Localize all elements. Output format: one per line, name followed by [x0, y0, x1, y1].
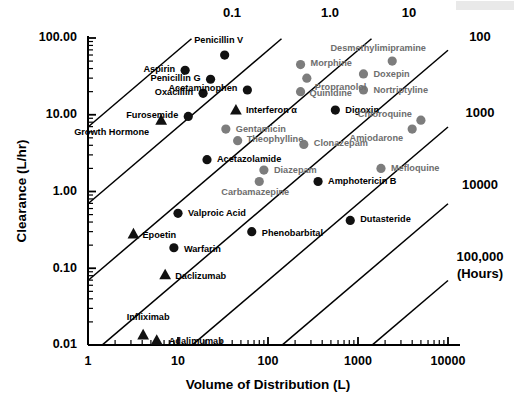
y-tick-label-0.01: 0.01 — [53, 337, 77, 351]
data-point-gentamicin — [221, 125, 230, 134]
data-point-amiodarone — [408, 125, 417, 134]
data-point-infliximab — [137, 329, 149, 340]
y-axis-title: Clearance (L/hr) — [14, 140, 29, 243]
data-point-label-diazepam: Diazepam — [274, 165, 317, 175]
data-point-label-carbamazepine: Carbamazepine — [221, 187, 289, 197]
data-point-label-daclizumab: Daclizumab — [175, 271, 226, 281]
chart-figure: 110100100010000100.0010.001.000.100.01 P… — [0, 0, 514, 402]
x-axis-title: Volume of Distribution (L) — [186, 377, 351, 392]
data-point-label-interferon-: Interferon α — [246, 105, 297, 115]
data-point-label-adalimumab: Adalimumab — [169, 336, 225, 346]
data-point-acetazolamide — [202, 155, 211, 164]
data-point-label-growth-hormone: Growth Hormone — [74, 127, 149, 137]
data-point-label-valproic-acid: Valproic Acid — [188, 208, 246, 218]
data-point-label-phenobarbital: Phenobarbital — [262, 228, 323, 238]
halflife-label-0-1: 0.1 — [223, 5, 241, 20]
data-point-label-theophylline: Theophylline — [247, 134, 304, 144]
data-point-chloroquine — [416, 116, 425, 125]
y-tick-label-1.00: 1.00 — [53, 184, 77, 198]
data-point-label-doxepin: Doxepin — [373, 69, 410, 79]
data-point-penicillin-v — [220, 50, 229, 59]
data-point-valproic-acid — [173, 209, 182, 218]
x-tick-label-1: 1 — [85, 354, 92, 368]
tick-labels-group: 110100100010000100.0010.001.000.100.01 — [39, 30, 466, 368]
data-point-epoetin — [128, 228, 140, 239]
y-tick-label-100.00: 100.00 — [39, 30, 77, 44]
halflife-label-100: 100 — [469, 29, 491, 44]
data-point-mefloquine — [376, 164, 385, 173]
data-point-furosemide — [184, 112, 193, 121]
data-point-interferon- — [230, 104, 242, 115]
data-point-digoxin — [331, 105, 340, 114]
data-point-label-chloroquine: Chloroquine — [358, 109, 412, 119]
data-point-morphine — [296, 60, 305, 69]
x-tick-label-100: 100 — [258, 354, 279, 368]
data-point-propranolol — [302, 74, 311, 83]
data-point-adalimumab — [151, 334, 163, 345]
halflife-label-10: 10 — [402, 5, 416, 20]
x-tick-label-10000: 10000 — [431, 354, 466, 368]
data-point-label-mefloquine: Mefloquine — [391, 163, 440, 173]
data-point-label-nortriptyline: Nortriptyline — [373, 85, 428, 95]
data-point-quinidine — [296, 87, 305, 96]
data-point-desmethylimipramine — [388, 57, 397, 66]
data-point-label-penicillin-v: Penicillin V — [194, 35, 244, 45]
data-point-carbamazepine — [255, 177, 264, 186]
data-point-label-warfarin: Warfarin — [184, 244, 221, 254]
data-point-label-morphine: Morphine — [311, 58, 352, 68]
data-point-label-acetaminophen: Acetaminophen — [168, 83, 237, 93]
y-tick-label-10.00: 10.00 — [46, 107, 77, 121]
data-point-theophylline — [233, 136, 242, 145]
data-point-label-furosemide: Furosemide — [126, 110, 178, 120]
data-point-labels-group: Penicillin VAspirinPenicillin GOxacillin… — [74, 35, 439, 345]
data-point-amphotericin-b — [313, 177, 322, 186]
halflife-unit-label: (Hours) — [457, 266, 503, 281]
data-point-label-epoetin: Epoetin — [142, 230, 176, 240]
data-point-acetaminophen — [243, 85, 252, 94]
halflife-label-10000: 10000 — [462, 177, 498, 192]
data-point-label-desmethylimipramine: Desmethylimipramine — [330, 43, 425, 53]
data-point-doxepin — [359, 69, 368, 78]
data-point-label-acetazolamide: Acetazolamide — [217, 154, 281, 164]
halflife-line-100,000 — [372, 280, 448, 344]
data-point-label-infliximab: Infliximab — [127, 312, 170, 322]
data-point-daclizumab — [159, 269, 171, 280]
data-point-warfarin — [169, 243, 178, 252]
halflife-line-10000 — [282, 204, 448, 345]
data-point-label-dutasteride: Dutasteride — [360, 214, 411, 224]
data-point-label-gentamicin: Gentamicin — [236, 124, 286, 134]
data-point-label-penicillin-g: Penicillin G — [151, 73, 201, 83]
halflife-label-1000: 1000 — [466, 105, 495, 120]
data-point-label-clonazepam: Clonazepam — [314, 138, 368, 148]
halflife-label-100-000: 100,000 — [457, 249, 504, 264]
data-point-phenobarbital — [247, 227, 256, 236]
halflife-line-1.0 — [88, 39, 282, 204]
data-point-diazepam — [259, 166, 268, 175]
data-point-label-amphotericin-b: Amphotericin B — [328, 176, 397, 186]
x-tick-label-10: 10 — [171, 354, 185, 368]
clearance-vs-volume-scatter-plot: 110100100010000100.0010.001.000.100.01 P… — [0, 0, 514, 402]
data-point-dutasteride — [346, 216, 355, 225]
data-point-label-quinidine: Quinidine — [310, 88, 352, 98]
x-tick-label-1000: 1000 — [344, 354, 372, 368]
halflife-label-1-0: 1.0 — [321, 5, 339, 20]
y-tick-label-0.10: 0.10 — [53, 261, 77, 275]
